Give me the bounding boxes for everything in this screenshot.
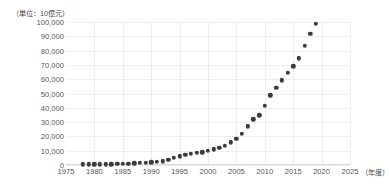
- x-tick-label: 2010: [256, 167, 273, 176]
- x-tick-label: 1980: [86, 167, 103, 176]
- data-point: [268, 93, 272, 97]
- data-point: [285, 71, 289, 75]
- y-tick-label: 30,000: [2, 118, 64, 127]
- x-tick-label: 2005: [228, 167, 245, 176]
- y-tick-label: 100,000: [2, 18, 64, 27]
- data-point: [234, 136, 238, 140]
- data-point: [280, 78, 284, 82]
- plot-area: [66, 22, 350, 165]
- x-axis-caption: （年度）: [361, 167, 389, 177]
- data-point: [246, 124, 250, 128]
- data-point: [302, 44, 306, 48]
- data-point: [166, 158, 170, 162]
- data-point: [257, 113, 261, 117]
- y-tick-label: 0: [2, 161, 64, 170]
- x-tick-label: 2025: [342, 167, 359, 176]
- unit-caption: （単位：10億元）: [12, 8, 69, 18]
- data-point: [314, 22, 318, 26]
- x-tick-label: 1990: [143, 167, 160, 176]
- gridline-vertical: [123, 22, 124, 165]
- data-point: [217, 146, 221, 150]
- y-tick-label: 10,000: [2, 146, 64, 155]
- data-point: [189, 152, 193, 156]
- gridline-vertical: [236, 22, 237, 165]
- data-point: [274, 86, 278, 90]
- data-point: [183, 153, 187, 157]
- data-point: [206, 149, 210, 153]
- data-point: [297, 56, 301, 60]
- x-tick-label: 2000: [200, 167, 217, 176]
- data-point: [200, 150, 204, 154]
- y-tick-label: 70,000: [2, 60, 64, 69]
- x-tick-label: 1985: [114, 167, 131, 176]
- x-tick-label: 2015: [285, 167, 302, 176]
- x-tick-label: 2020: [313, 167, 330, 176]
- gridline-vertical: [265, 22, 266, 165]
- x-tick-label: 1975: [58, 167, 75, 176]
- y-axis-tick-labels: 010,00020,00030,00040,00050,00060,00070,…: [0, 22, 64, 165]
- data-point: [240, 131, 244, 135]
- data-point: [177, 154, 181, 158]
- y-tick-label: 60,000: [2, 75, 64, 84]
- y-tick-label: 20,000: [2, 132, 64, 141]
- data-point: [160, 159, 164, 163]
- y-tick-label: 80,000: [2, 46, 64, 55]
- data-point: [251, 117, 255, 121]
- gridline-vertical: [293, 22, 294, 165]
- x-axis-tick-labels: 1975198019851990199520002005201020152020…: [66, 167, 350, 181]
- data-point: [229, 140, 233, 144]
- gridline-vertical: [151, 22, 152, 165]
- x-tick-label: 1995: [171, 167, 188, 176]
- y-tick-label: 40,000: [2, 103, 64, 112]
- gridline-vertical: [322, 22, 323, 165]
- data-point: [223, 143, 227, 147]
- gridline-vertical: [208, 22, 209, 165]
- data-point: [194, 151, 198, 155]
- data-point: [308, 31, 312, 35]
- gridline-vertical: [350, 22, 351, 165]
- data-point: [172, 156, 176, 160]
- gridline-horizontal: [66, 165, 350, 166]
- gridline-vertical: [180, 22, 181, 165]
- gridline-vertical: [94, 22, 95, 165]
- data-point: [291, 64, 295, 68]
- y-tick-label: 90,000: [2, 32, 64, 41]
- data-point: [81, 162, 85, 166]
- y-tick-label: 50,000: [2, 89, 64, 98]
